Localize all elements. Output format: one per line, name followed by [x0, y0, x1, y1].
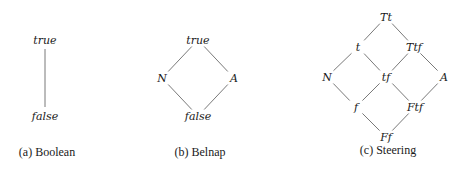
lattice-node: t: [356, 41, 361, 54]
lattice-edge: [168, 85, 192, 110]
lattice-edge: [204, 47, 228, 72]
lattice-node: Tt: [380, 11, 392, 24]
lattice-edge: [334, 53, 352, 70]
lattice-edge: [421, 84, 437, 101]
lattice-edge: [392, 24, 408, 41]
lattice-edge: [364, 54, 380, 71]
lattice-node: Ftf: [406, 101, 425, 114]
caption-belnap: (b) Belnap: [175, 145, 226, 160]
belnap-lattice: trueNAfalse: [156, 34, 238, 123]
lattice-node: N: [156, 72, 167, 85]
lattice-edge: [392, 84, 408, 101]
lattice-node: false: [184, 110, 212, 123]
lattice-edge: [362, 83, 379, 100]
lattice-edge: [362, 113, 379, 130]
lattice-edge: [420, 53, 437, 70]
lattice-node: A: [229, 72, 238, 85]
lattice-node: N: [321, 71, 332, 84]
lattice-node: Ttf: [406, 41, 424, 54]
lattice-node: f: [353, 101, 360, 114]
lattice-edge: [204, 85, 228, 110]
lattice-edge: [364, 24, 380, 41]
lattice-node: true: [186, 34, 210, 47]
lattice-node: A: [439, 71, 448, 84]
caption-boolean: (a) Boolean: [19, 145, 75, 160]
lattice-node: true: [33, 34, 57, 47]
lattice-node: false: [31, 110, 59, 123]
lattice-edge: [333, 84, 349, 101]
boolean-lattice: truefalse: [31, 34, 59, 123]
lattice-node: tf: [382, 71, 392, 84]
lattice-edge: [392, 114, 408, 131]
lattice-edge: [392, 54, 408, 71]
lattice-edge: [168, 47, 192, 72]
steering-lattice: TttTtfNtfAfFtfFf: [321, 11, 448, 144]
caption-steering: (c) Steering: [360, 143, 416, 158]
